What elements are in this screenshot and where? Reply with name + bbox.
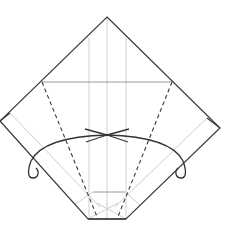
- left-arrow-arc-icon: [29, 135, 107, 178]
- right-dashed-fold: [117, 82, 172, 219]
- right-arrow-arc-icon: [107, 135, 185, 178]
- arrowhead-left-upper: [85, 129, 107, 135]
- paper-outline: [0, 17, 220, 219]
- flap-edges: [0, 113, 220, 128]
- right-flap-edge: [207, 118, 220, 128]
- left-flap-edge: [0, 113, 10, 121]
- light-creases: [10, 17, 207, 219]
- left-diagonal-crease: [10, 113, 100, 207]
- right-diagonal-crease: [115, 118, 207, 207]
- origami-diagram: [0, 0, 236, 232]
- bottom-right-cross-crease: [97, 203, 126, 219]
